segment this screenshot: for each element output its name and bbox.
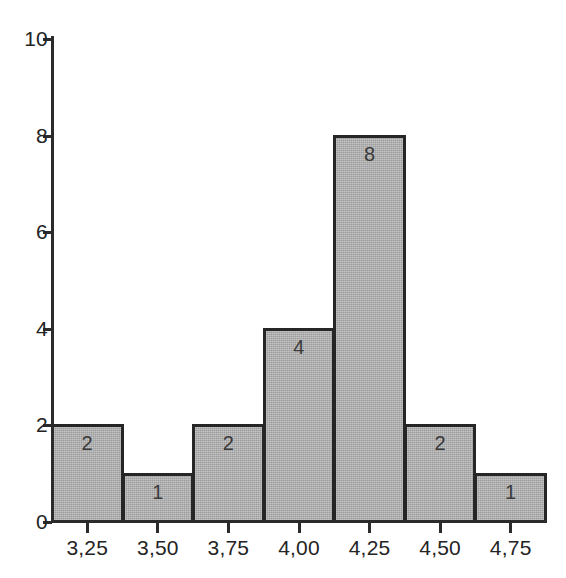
x-tick-mark [86,523,89,533]
y-tick-label: 10 [10,28,52,49]
histogram-bar: 2 [51,424,124,523]
x-tick-mark [439,523,442,533]
x-tick-mark [368,523,371,533]
x-tick-mark [298,523,301,533]
histogram-bar: 2 [192,424,265,523]
y-tick-label: 2 [10,414,52,435]
y-tick-label: 4 [10,318,52,339]
histogram-bar: 1 [474,473,547,523]
bar-value-label: 2 [195,433,262,453]
bar-value-label: 1 [125,482,192,502]
bar-value-label: 4 [266,337,333,357]
x-tick-mark [156,523,159,533]
y-tick-label: 8 [10,125,52,146]
histogram-bar: 1 [122,473,195,523]
bar-value-label: 8 [336,144,403,164]
y-axis-line [51,36,54,523]
y-tick-label: 0 [10,511,52,532]
bar-value-label: 2 [54,433,121,453]
histogram-bar: 2 [404,424,477,523]
histogram-chart: 2124821 1086420 3,253,503,754,004,254,50… [0,0,566,578]
bar-value-label: 1 [477,482,544,502]
x-tick-mark [509,523,512,533]
y-tick-label: 6 [10,221,52,242]
x-tick-mark [227,523,230,533]
bars-layer: 2124821 [0,0,566,578]
x-tick-label: 4,75 [456,537,566,558]
histogram-bar: 4 [263,328,336,523]
bar-value-label: 2 [407,433,474,453]
histogram-bar: 8 [333,135,406,523]
